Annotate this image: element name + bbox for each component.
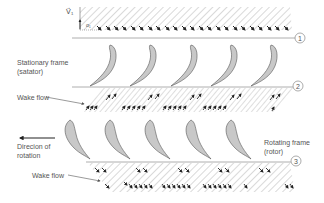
svg-text:1: 1 — [298, 35, 302, 42]
stationary-frame-sublabel: (satator) — [17, 68, 43, 76]
svg-text:2: 2 — [296, 83, 300, 90]
stationary-frame-label: Stationary frame — [17, 59, 68, 67]
velocity-label: V⃗₁ — [66, 8, 73, 16]
wake-flow-label-2: Wake flow — [32, 172, 64, 180]
alpha-label: α₁ — [86, 21, 91, 29]
rotating-frame-sublabel: (rotor) — [264, 148, 283, 156]
rotor-wake-band — [88, 163, 295, 192]
direction-of-rotation-sublabel: rotation — [17, 152, 40, 160]
wake-flow-pointer-2 — [68, 175, 100, 181]
wake-flow-label-1: Wake flow — [17, 94, 49, 102]
rotor-blade-row — [65, 120, 251, 159]
wake-flow-pointer-1 — [46, 97, 84, 104]
inlet-flow-band — [80, 7, 292, 30]
rotating-frame-label: Rotating frame — [264, 139, 310, 147]
svg-text:3: 3 — [294, 158, 298, 165]
direction-of-rotation-label: Direcion of — [17, 143, 50, 151]
stator-wake-band — [84, 88, 294, 112]
stator-blade-row — [90, 45, 277, 86]
